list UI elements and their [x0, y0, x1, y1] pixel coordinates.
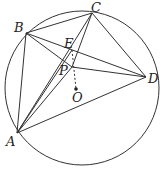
segment-EO — [72, 50, 76, 89]
segments — [17, 13, 146, 133]
segment-AB — [17, 33, 26, 133]
segment-BC — [26, 13, 92, 33]
geometry-diagram: A B C D E P O — [0, 0, 165, 173]
label-C: C — [91, 0, 101, 15]
segment-DA — [17, 77, 146, 133]
segment-AC — [17, 13, 92, 133]
label-A: A — [5, 134, 15, 149]
label-P: P — [58, 63, 68, 78]
label-D: D — [147, 71, 159, 86]
label-B: B — [13, 20, 24, 35]
label-E: E — [63, 36, 74, 51]
label-O: O — [72, 90, 83, 105]
segment-PD — [72, 67, 146, 77]
diagram-canvas: A B C D E P O — [0, 0, 165, 173]
